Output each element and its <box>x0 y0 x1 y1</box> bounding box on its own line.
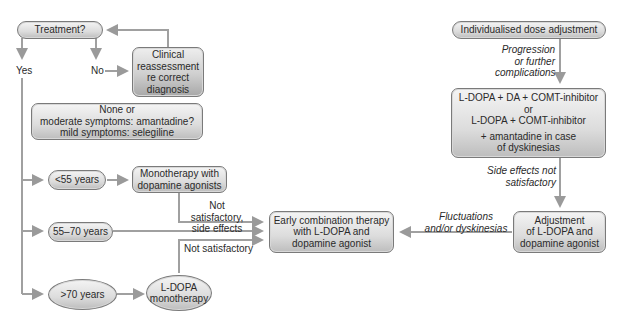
node-55-70-label: 55–70 years <box>53 226 108 238</box>
node-individualised-label: Individualised dose adjustment <box>461 24 598 36</box>
node-none-or-symptoms: None or moderate symptoms: amantadine? m… <box>31 103 203 140</box>
node-text-line: L-DOPA <box>161 282 198 294</box>
node-text-line: reassessment <box>137 61 199 73</box>
node-combination-right: L-DOPA + DA + COMT-inhibitor or L-DOPA +… <box>451 88 606 158</box>
edge-label-line: and/or dyskinesias <box>421 223 511 235</box>
node-clinical-reassessment: Clinical reassessment re correct diagnos… <box>132 47 204 97</box>
edge-label-line: satisfactory <box>480 177 556 189</box>
node-text-line: re correct <box>147 72 189 84</box>
node-text-line: Early combination therapy <box>274 215 390 227</box>
node-text-line: of dyskinesias <box>497 142 560 154</box>
node-text-line: or <box>524 104 533 116</box>
edge-label-line: complications <box>495 67 555 79</box>
edge-label-line: Progression <box>495 44 555 56</box>
node-treatment-label: Treatment? <box>35 24 86 36</box>
node-text-line: of L-DOPA and <box>526 226 593 238</box>
node-text-line: Monotherapy with <box>140 168 219 180</box>
node-over-70-label: >70 years <box>60 289 104 301</box>
edge-label-no: No <box>91 65 104 77</box>
node-monotherapy-da: Monotherapy with dopamine agonists <box>132 166 227 193</box>
node-text-line: moderate symptoms: amantadine? <box>40 116 194 128</box>
node-under-55: <55 years <box>48 170 106 190</box>
node-text-line: None or <box>99 104 135 116</box>
node-text-line: L-DOPA + COMT-inhibitor <box>471 115 586 127</box>
node-text-line: mild symptoms: selegiline <box>60 127 174 139</box>
node-55-70: 55–70 years <box>48 222 113 242</box>
node-text-line: Adjustment <box>534 215 584 227</box>
node-early-combination: Early combination therapy with L-DOPA an… <box>269 211 394 253</box>
node-treatment: Treatment? <box>17 21 103 39</box>
node-text-line: Clinical <box>152 49 184 61</box>
node-text-line: with L-DOPA and <box>294 226 370 238</box>
edge-label-line: Not satisfactory, <box>182 200 252 223</box>
node-ldopa-monotherapy: L-DOPA monotherapy <box>146 275 212 311</box>
edge-label-not-satisfactory: Not satisfactory <box>184 243 253 255</box>
node-text-line: L-DOPA + DA + COMT-inhibitor <box>459 92 598 104</box>
node-text-line: dopamine agonist <box>520 238 599 250</box>
edge-label-line: side effects <box>182 223 252 235</box>
edge-label-line: Fluctuations <box>421 211 511 223</box>
edge-label-not-satisfactory-side-effects: Not satisfactory, side effects <box>182 200 252 235</box>
edge-label-side-effects-not-satisfactory: Side effects not satisfactory <box>480 165 556 188</box>
edge-label-line: or further <box>495 56 555 68</box>
node-text-line: dopamine agonists <box>138 180 222 192</box>
node-text-line: + amantadine in case <box>481 131 576 143</box>
node-text-line: diagnosis <box>147 84 189 96</box>
edge-label-fluctuations: Fluctuations and/or dyskinesias <box>421 211 511 234</box>
node-under-55-label: <55 years <box>55 174 99 186</box>
edge-label-line: Side effects not <box>480 165 556 177</box>
node-text-line: monotherapy <box>150 293 208 305</box>
node-individualised-dose: Individualised dose adjustment <box>452 21 606 39</box>
edge-label-yes: Yes <box>16 65 32 77</box>
node-text-line: dopamine agonist <box>292 238 371 250</box>
node-over-70: >70 years <box>48 279 117 310</box>
node-adjustment: Adjustment of L-DOPA and dopamine agonis… <box>513 211 606 253</box>
edge-label-progression: Progression or further complications <box>495 44 555 79</box>
